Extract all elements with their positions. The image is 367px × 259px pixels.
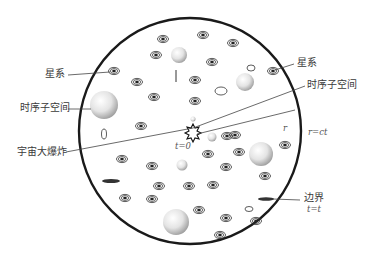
boundary-equation: t=t <box>307 205 321 214</box>
galaxy-label-right: 星系 <box>297 58 317 68</box>
galaxy-label-left: 星系 <box>45 69 65 79</box>
big-bang-label: 宇宙大爆炸 <box>17 147 67 157</box>
radius-label: r <box>283 124 287 133</box>
big-bang-burst-icon <box>185 124 201 142</box>
subspace-label-left: 时序子空间 <box>20 103 70 113</box>
t-zero-label: t=0 <box>175 142 191 151</box>
radius-equation: r=ct <box>308 128 327 137</box>
boundary-label: 边界 <box>304 193 324 203</box>
subspace-label-right: 时序子空间 <box>307 80 357 90</box>
